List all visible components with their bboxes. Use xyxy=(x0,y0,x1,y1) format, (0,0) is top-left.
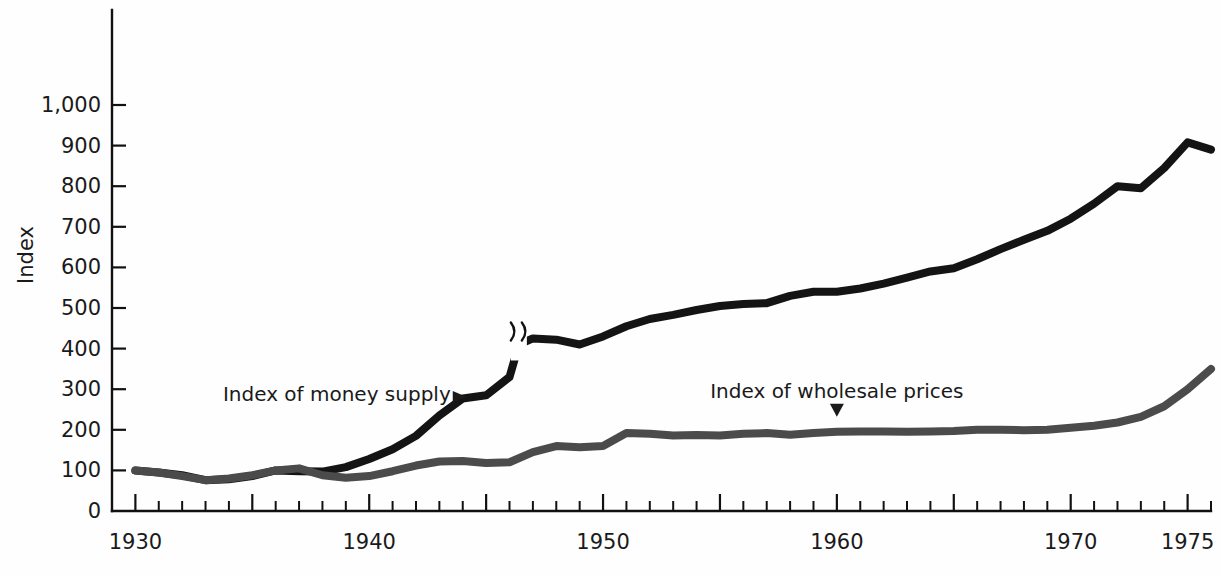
series-lines-group xyxy=(135,142,1211,480)
series-break-marks xyxy=(511,320,527,360)
x-tick-label-1950: 1950 xyxy=(576,530,629,554)
y-tick-label-800: 800 xyxy=(61,174,101,198)
y-tick-label-400: 400 xyxy=(61,337,101,361)
chart-figure: 01002003004005006007008009001,000 193019… xyxy=(0,0,1221,576)
y-tick-label-100: 100 xyxy=(61,458,101,482)
y-tick-label-300: 300 xyxy=(61,377,101,401)
y-tick-label-700: 700 xyxy=(61,215,101,239)
y-tick-label-1000: 1,000 xyxy=(41,93,101,117)
x-axis-ticks xyxy=(135,494,1211,511)
x-tick-label-1975: 1975 xyxy=(1161,530,1214,554)
y-tick-label-600: 600 xyxy=(61,255,101,279)
y-tick-label-200: 200 xyxy=(61,418,101,442)
line-chart-canvas: 01002003004005006007008009001,000 193019… xyxy=(0,0,1221,576)
y-axis-tick-labels: 01002003004005006007008009001,000 xyxy=(41,93,101,523)
wholesale-prices-label: Index of wholesale prices xyxy=(710,379,963,403)
y-axis-title: Index xyxy=(14,226,38,284)
x-tick-label-1960: 1960 xyxy=(810,530,863,554)
x-tick-label-1940: 1940 xyxy=(342,530,395,554)
x-axis-tick-labels: 193019401950196019701975 xyxy=(109,530,1215,554)
money-supply-label: Index of money supply xyxy=(223,382,451,406)
y-axis-ticks xyxy=(112,105,126,470)
x-tick-label-1970: 1970 xyxy=(1044,530,1097,554)
y-tick-label-500: 500 xyxy=(61,296,101,320)
chart-annotations: Index of money supplyIndex of wholesale … xyxy=(223,379,964,417)
y-tick-label-900: 900 xyxy=(61,134,101,158)
x-tick-label-1930: 1930 xyxy=(109,530,162,554)
wholesale-prices-label-arrow-icon xyxy=(830,404,844,417)
y-tick-label-0: 0 xyxy=(88,499,101,523)
